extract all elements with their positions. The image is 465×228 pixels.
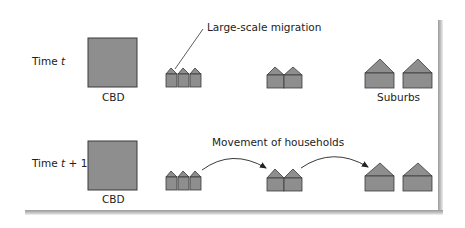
time-label-text: Time [32, 157, 61, 169]
time-label-suffix: + 1 [65, 157, 87, 169]
house-cluster-middle [267, 67, 302, 88]
row-time-t-plus-1 [88, 141, 432, 191]
row-time-t [88, 29, 432, 88]
time-label-row2: Time t + 1 [32, 157, 87, 169]
cbd-label-row1: CBD [102, 91, 125, 103]
house-cluster-suburbs [365, 59, 432, 88]
time-label-row1: Time t [32, 55, 65, 67]
house-cluster-middle [267, 169, 302, 191]
cbd-label-row2: CBD [102, 193, 125, 205]
house-cluster-near-cbd [166, 68, 201, 87]
arrow-cbd-to-middle [202, 158, 266, 170]
cbd-block [88, 38, 137, 87]
house-cluster-near-cbd [166, 171, 201, 190]
house-cluster-suburbs [365, 163, 432, 191]
movement-of-households-annotation: Movement of households [212, 136, 344, 148]
cbd-block [88, 141, 137, 190]
urban-migration-diagram [0, 0, 465, 228]
time-label-text: Time [32, 55, 61, 67]
arrow-middle-to-suburbs [301, 157, 368, 168]
migration-pointer-line [175, 29, 203, 69]
time-variable: t [61, 55, 65, 67]
large-scale-migration-annotation: Large-scale migration [207, 21, 321, 33]
suburbs-label: Suburbs [377, 91, 420, 103]
